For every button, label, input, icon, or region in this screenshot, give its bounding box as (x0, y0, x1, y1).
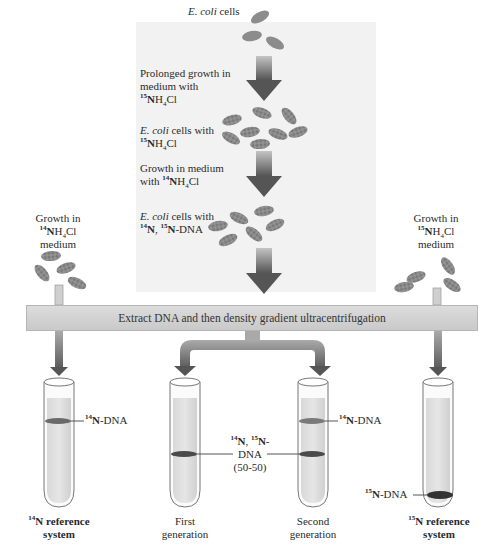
label-n14-dna-second: 14N-DNA (339, 414, 381, 427)
n15-cells-right (393, 255, 463, 295)
label-ecoli-hybrid: E. coli cells with 14N, 15N-DNA (140, 210, 214, 236)
diagram-graphics (0, 0, 499, 560)
hybrid-cells (207, 204, 286, 248)
arrow-to-tube-4 (429, 331, 447, 376)
arrow-down-3 (246, 248, 282, 294)
label-growth-n14: Growth in medium with 14NH4Cl (140, 162, 224, 188)
caption-n14-reference: 14N reference system (19, 515, 99, 541)
arrow-to-tube-1 (50, 331, 68, 376)
left-connector (55, 285, 63, 305)
process-bar: Extract DNA and then density gradient ul… (26, 305, 478, 331)
label-prolonged-growth: Prolonged growth in medium with 15NH4Cl (140, 67, 230, 106)
label-hybrid-dna: 14N, 15N- DNA (50-50) (220, 435, 280, 474)
label-ecoli-n15: E. coli cells with 15NH4Cl (140, 124, 214, 150)
caption-first-generation: First generation (145, 515, 225, 541)
label-n15-dna-ref: 15N-DNA (365, 488, 407, 501)
split-arrow (174, 331, 331, 376)
tube-n14-reference (44, 378, 84, 507)
arrow-down-2 (246, 151, 282, 197)
label-n14-dna-ref: 14N-DNA (85, 414, 127, 427)
right-connector (433, 288, 441, 305)
arrow-down-1 (246, 56, 282, 101)
plain-cells-top (241, 8, 286, 53)
label-right-growth: Growth in 15NH4Cl medium (400, 212, 472, 251)
caption-second-generation: Second generation (273, 515, 353, 541)
label-left-growth: Growth in 14NH4Cl medium (22, 212, 94, 251)
caption-n15-reference: 15N reference system (398, 515, 480, 541)
tube-n15-reference (413, 378, 453, 507)
label-ecoli-cells: E. coli cells (188, 5, 240, 18)
n15-cells (220, 105, 309, 150)
